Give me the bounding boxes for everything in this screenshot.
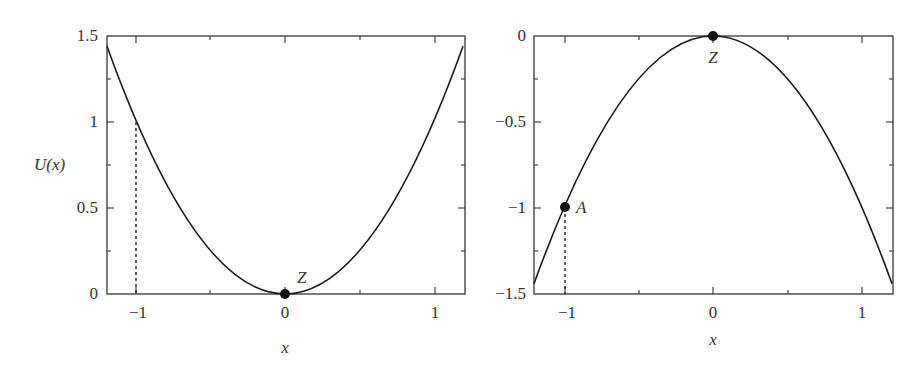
right-point-z bbox=[708, 31, 718, 41]
left-ytick-0: 0 bbox=[90, 284, 99, 303]
right-plot-frame bbox=[534, 36, 893, 294]
left-xtick-1: 1 bbox=[431, 303, 440, 322]
right-label-a: A bbox=[575, 198, 587, 217]
right-xlabel: x bbox=[708, 330, 717, 349]
left-plot-frame bbox=[107, 36, 465, 294]
left-xtick-neg1: −1 bbox=[129, 303, 147, 322]
left-ylabel: U(x) bbox=[34, 155, 65, 174]
right-y-ticks bbox=[534, 79, 893, 251]
left-ytick-1.5: 1.5 bbox=[77, 26, 98, 45]
left-x-ticks bbox=[136, 36, 435, 294]
right-ytick-neg1: −1 bbox=[508, 198, 526, 217]
left-curve bbox=[107, 46, 463, 294]
right-plot: 0 −0.5 −1 −1.5 −1 0 1 x Z A bbox=[495, 26, 893, 349]
right-xtick-0: 0 bbox=[709, 303, 718, 322]
left-ytick-0.5: 0.5 bbox=[77, 198, 98, 217]
left-y-ticks bbox=[107, 79, 465, 251]
left-ytick-1: 1 bbox=[90, 112, 99, 131]
figure: 1.5 1 0.5 0 −1 0 1 x U(x) Z bbox=[0, 0, 922, 370]
right-ytick-neg0.5: −0.5 bbox=[495, 112, 526, 131]
right-label-z: Z bbox=[708, 48, 718, 67]
right-xtick-1: 1 bbox=[858, 303, 867, 322]
right-xtick-neg1: −1 bbox=[558, 303, 576, 322]
left-plot: 1.5 1 0.5 0 −1 0 1 x U(x) Z bbox=[34, 26, 465, 357]
right-x-ticks bbox=[565, 36, 862, 294]
right-point-a bbox=[560, 202, 570, 212]
right-curve bbox=[534, 36, 892, 284]
left-xtick-0: 0 bbox=[281, 303, 290, 322]
left-label-z: Z bbox=[297, 268, 307, 287]
right-ytick-neg1.5: −1.5 bbox=[495, 284, 526, 303]
left-xlabel: x bbox=[280, 338, 289, 357]
right-ytick-0: 0 bbox=[518, 26, 527, 45]
left-point-z bbox=[280, 289, 290, 299]
